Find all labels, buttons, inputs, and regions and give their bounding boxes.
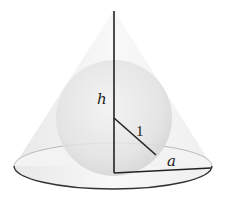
base-radius-label: a — [167, 152, 176, 170]
sphere-radius-label: 1 — [136, 123, 144, 139]
height-label: h — [97, 90, 107, 108]
cone-sphere-diagram: h 1 a — [0, 0, 228, 202]
